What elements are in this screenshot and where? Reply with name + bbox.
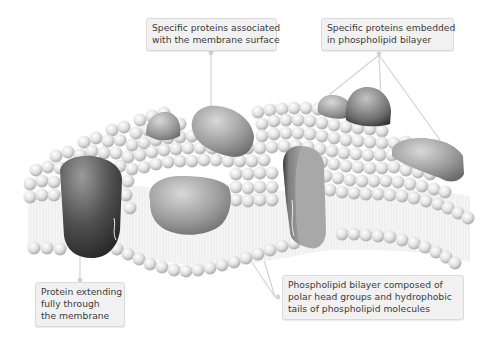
label-line: with the membrane surface: [152, 34, 271, 46]
label-surface-proteins: Specific proteins associated with the me…: [146, 18, 277, 51]
label-line: Phospholipid bilayer composed of: [288, 279, 458, 291]
label-transmembrane-protein: Protein extending fully through the memb…: [35, 282, 125, 327]
label-line: the membrane: [41, 310, 119, 322]
label-line: Specific proteins embedded: [327, 22, 448, 34]
label-line: Protein extending: [41, 286, 119, 298]
label-line: in phospholipid bilayer: [327, 34, 448, 46]
label-embedded-proteins: Specific proteins embedded in phospholip…: [321, 18, 454, 51]
label-line: Specific proteins associated: [152, 22, 271, 34]
label-phospholipid-bilayer: Phospholipid bilayer composed of polar h…: [282, 275, 464, 320]
protein-top-right-2: [346, 87, 391, 126]
protein-center-embedded: [149, 176, 231, 235]
label-line: fully through: [41, 298, 119, 310]
label-line: tails of phospholipid molecules: [288, 303, 458, 315]
protein-transmembrane-left: [60, 156, 122, 258]
label-line: polar head groups and hydrophobic: [288, 291, 458, 303]
